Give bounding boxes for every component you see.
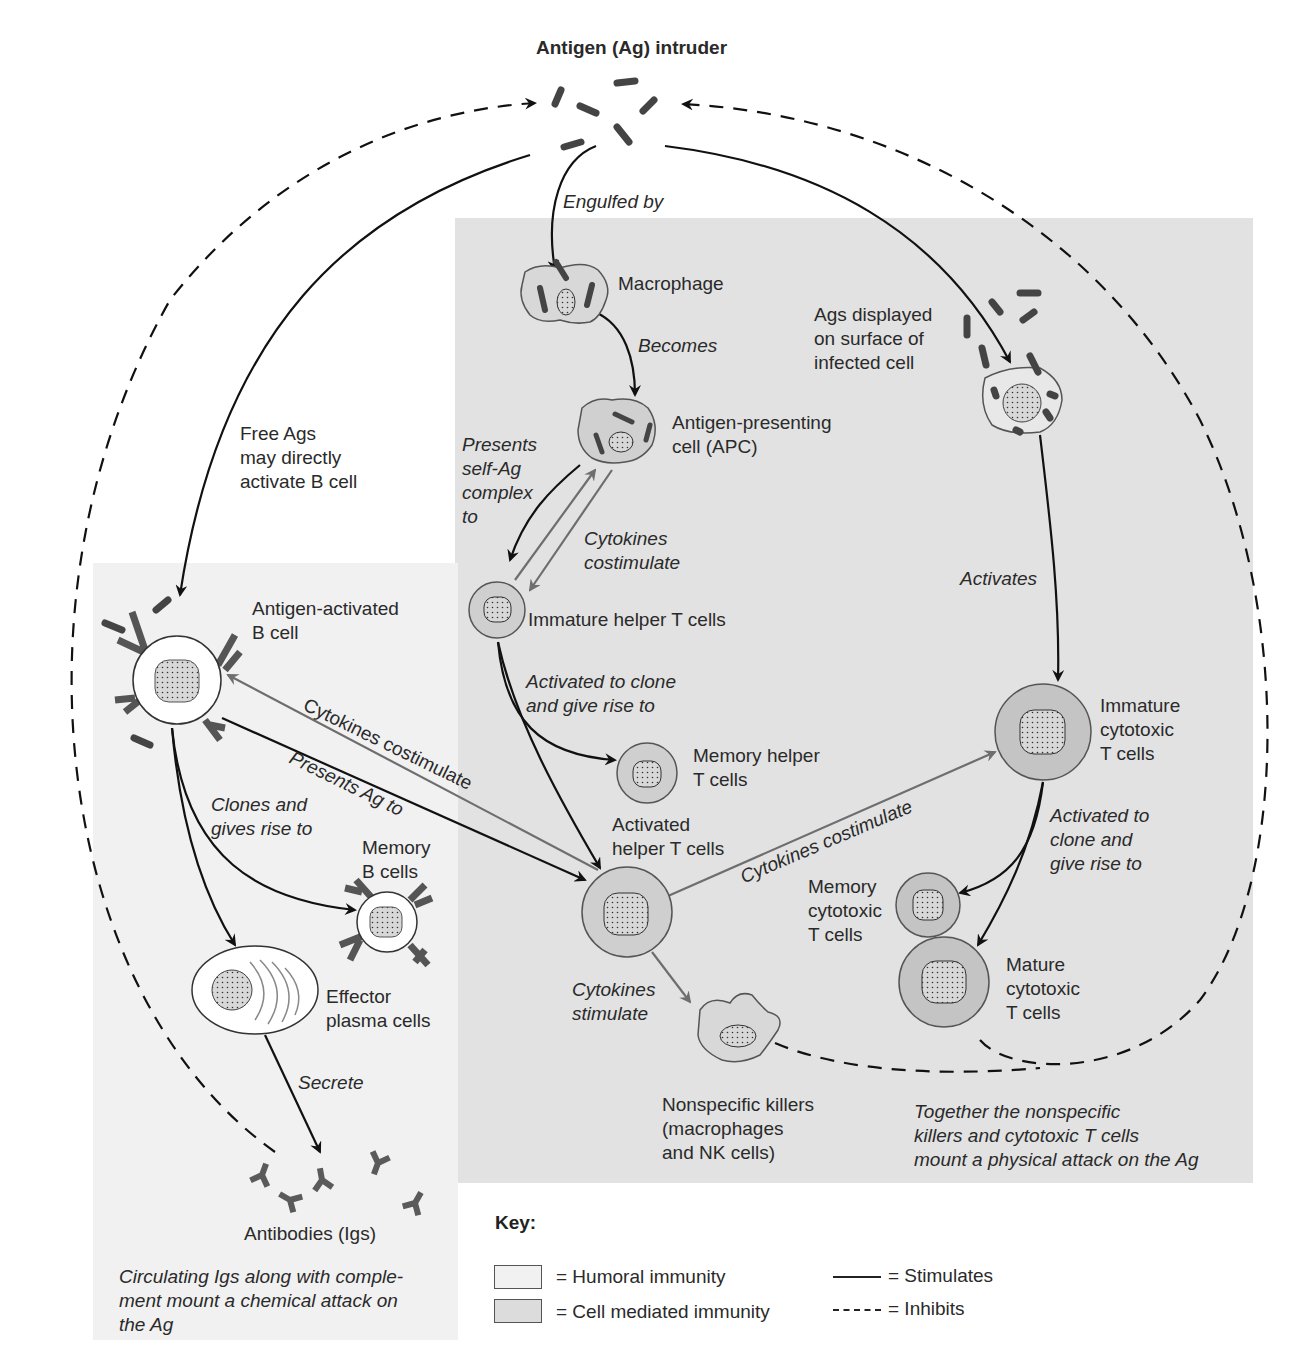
label-infected-cell: Ags displayed on surface of infected cel… — [814, 303, 932, 375]
antigen-presenting-cell — [578, 399, 655, 463]
label-memory-b: Memory B cells — [362, 836, 431, 884]
edge-label-activated-to-clone-helper: Activated to clone and give rise to — [526, 670, 676, 718]
legend-label-inhibits: = Inhibits — [888, 1297, 965, 1321]
note-physical-attack: Together the nonspecific killers and cyt… — [914, 1100, 1198, 1172]
label-immature-cytotoxic: Immature cytotoxic T cells — [1100, 694, 1180, 766]
note-chemical-attack: Circulating Igs along with comple- ment … — [119, 1265, 403, 1337]
legend-line-inhibits — [833, 1309, 881, 1311]
edge-label-engulfed-by: Engulfed by — [563, 190, 663, 214]
label-plasma-cells: Effector plasma cells — [326, 985, 431, 1033]
label-memory-helper: Memory helper T cells — [693, 744, 820, 792]
label-b-cell: Antigen-activated B cell — [252, 597, 399, 645]
label-mature-cytotoxic: Mature cytotoxic T cells — [1006, 953, 1080, 1025]
edge-label-secrete: Secrete — [298, 1071, 363, 1095]
edge-label-becomes: Becomes — [638, 334, 717, 358]
edge-label-presents-self-ag: Presents self-Ag complex to — [462, 433, 537, 529]
legend-label-cell-mediated: = Cell mediated immunity — [556, 1300, 770, 1324]
antibodies-cluster — [250, 1151, 428, 1215]
memory-helper-t-cell — [617, 743, 677, 803]
edge-label-activated-to-clone-cyto: Activated to clone and give rise to — [1050, 804, 1149, 876]
edge-label-cytokines-stimulate: Cytokines stimulate — [572, 978, 655, 1026]
label-nonspecific-killers: Nonspecific killers (macrophages and NK … — [662, 1093, 814, 1165]
legend-title: Key: — [495, 1212, 536, 1234]
legend-label-humoral: = Humoral immunity — [556, 1265, 725, 1289]
nonspecific-killer-cell — [698, 994, 780, 1062]
effector-plasma-cell — [192, 946, 318, 1034]
legend-label-stimulates: = Stimulates — [888, 1264, 993, 1288]
memory-cytotoxic-t-cell — [896, 873, 960, 937]
memory-b-cell — [340, 880, 432, 965]
legend-swatch-humoral — [494, 1265, 542, 1289]
mature-cytotoxic-t-cell — [899, 937, 989, 1027]
macrophage-cell — [521, 262, 608, 323]
antigen-intruder-cluster — [555, 81, 654, 147]
label-macrophage: Macrophage — [618, 272, 724, 296]
immature-helper-t-cell — [469, 582, 525, 638]
edge-label-clones-and-gives-rise: Clones and gives rise to — [211, 793, 312, 841]
label-activated-helper: Activated helper T cells — [612, 813, 724, 861]
activated-helper-t-cell — [582, 867, 672, 957]
edge-label-cytokines-costimulate-apc: Cytokines costimulate — [584, 527, 680, 575]
antigen-activated-b-cell — [105, 600, 240, 745]
label-free-ags: Free Ags may directly activate B cell — [240, 422, 357, 494]
immature-cytotoxic-t-cell — [995, 684, 1091, 780]
label-memory-cytotoxic: Memory cytotoxic T cells — [808, 875, 882, 947]
legend-swatch-cell-mediated — [494, 1299, 542, 1323]
legend-line-stimulates — [833, 1276, 881, 1278]
label-antibodies: Antibodies (Igs) — [244, 1222, 376, 1246]
label-immature-helper: Immature helper T cells — [528, 608, 726, 632]
diagram-title: Antigen (Ag) intruder — [536, 36, 727, 60]
edge-label-activates: Activates — [960, 567, 1037, 591]
label-apc: Antigen-presenting cell (APC) — [672, 411, 832, 459]
